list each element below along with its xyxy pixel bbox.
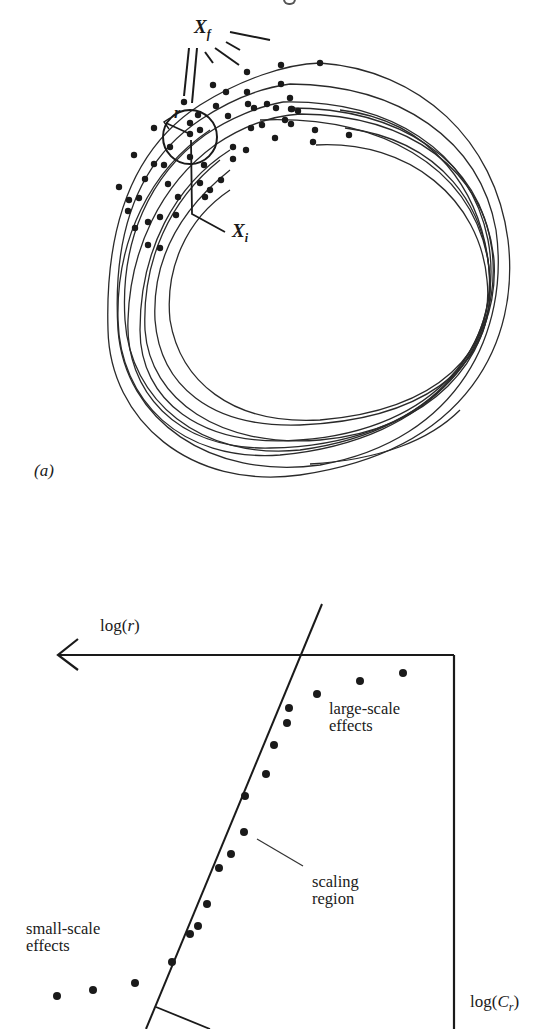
x-axis-label: log(r) xyxy=(100,617,140,634)
small-scale-effects-label: small-scale effects xyxy=(26,920,100,954)
scaling-region-leader xyxy=(257,839,303,866)
y-axis-label: log(Cr) xyxy=(470,993,519,1016)
bottom-leader xyxy=(156,1007,210,1029)
scaling-region-label: scaling region xyxy=(312,873,359,907)
large-scale-effects-label: large-scale effects xyxy=(329,700,400,734)
correlation-sum-plot xyxy=(0,0,551,1029)
